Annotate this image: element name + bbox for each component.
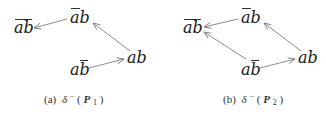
caption-sub: 2 — [273, 98, 277, 107]
caption-sub: 1 — [93, 98, 97, 107]
node-a-not-b: ab — [70, 60, 90, 79]
arrow-ab-to-notab — [93, 23, 130, 51]
node-not-a-and-not-b: ab — [14, 18, 34, 37]
caption-open: ( — [257, 93, 261, 106]
arrow-anotb-to-ab — [260, 59, 295, 68]
node-not-a-b: ab — [70, 8, 90, 27]
caption-open: ( — [77, 93, 81, 106]
node-label: ab — [70, 60, 90, 79]
arrow-notab-to-notnot — [204, 19, 238, 27]
caption-var: P — [84, 93, 91, 105]
diagram-canvas: ab ab ab ab (a) δ − ( P 1 ) — [0, 0, 326, 115]
node-label: ab — [241, 60, 261, 79]
node-label: ab — [241, 8, 261, 27]
caption-sup: − — [249, 92, 254, 101]
caption-b: (b) δ − ( P 2 ) — [223, 89, 283, 107]
caption-a: (a) δ − ( P 1 ) — [44, 89, 104, 107]
node-label: ab — [70, 8, 90, 27]
caption-label: (b) — [223, 93, 236, 106]
node-not-a-and-not-b: ab — [183, 18, 203, 37]
caption-func: δ — [242, 93, 248, 105]
arrow-notab-to-notnot — [34, 19, 67, 28]
panel-a: ab ab ab ab (a) δ − ( P 1 ) — [14, 8, 147, 107]
arrow-ab-to-notab — [264, 23, 301, 51]
panel-b: ab ab ab ab (b) δ − ( P 2 ) — [183, 8, 318, 107]
node-label: ab — [183, 18, 203, 37]
node-label: ab — [14, 18, 34, 37]
caption-sup: − — [70, 92, 75, 101]
arrow-anotb-to-notnot — [204, 32, 246, 59]
caption-func: δ — [62, 93, 68, 105]
caption-close: ) — [279, 93, 283, 106]
caption-label: (a) — [44, 93, 57, 106]
caption-var: P — [263, 93, 270, 105]
node-a-not-b: ab — [241, 60, 261, 79]
node-not-a-b: ab — [241, 8, 261, 27]
arrow-anotb-to-ab — [89, 59, 124, 68]
caption-close: ) — [100, 93, 104, 106]
